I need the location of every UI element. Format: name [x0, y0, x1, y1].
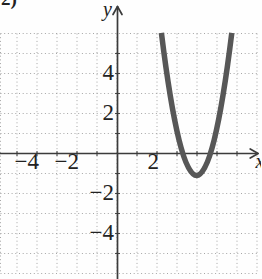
x-tick-label: 2: [148, 149, 160, 174]
exercise-label-partial: 2): [1, 0, 17, 10]
graph-figure: −4−2242−2−4 y x 2): [0, 0, 261, 279]
x-tick-label: −4: [15, 149, 40, 174]
coordinate-plane: −4−2242−2−4 y x 2): [0, 0, 261, 279]
y-tick-label: 4: [103, 60, 115, 85]
x-axis-label: x: [255, 150, 262, 172]
y-tick-label: 2: [103, 100, 115, 125]
y-axis-label: y: [101, 0, 112, 21]
x-tick-label: −2: [55, 149, 79, 174]
y-tick-label: −2: [90, 180, 114, 205]
axes: [0, 7, 258, 279]
y-tick-label: −4: [90, 220, 115, 245]
